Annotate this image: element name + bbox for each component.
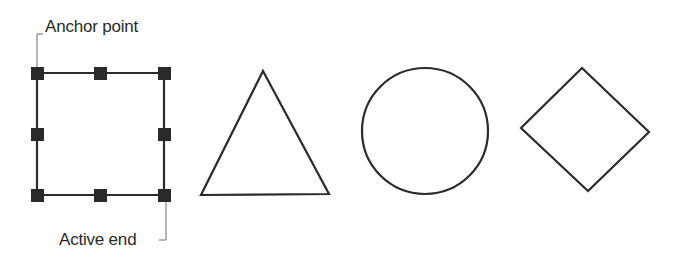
handle-middle-right[interactable] xyxy=(158,128,171,141)
anchor-point-handle[interactable] xyxy=(31,67,44,80)
handle-middle-left[interactable] xyxy=(31,128,44,141)
active-end-callout-line xyxy=(159,200,166,240)
handle-top-middle[interactable] xyxy=(94,67,107,80)
diamond-shape xyxy=(521,68,649,191)
anchor-point-label: Anchor point xyxy=(45,17,138,37)
anchor-point-callout-line xyxy=(37,34,43,68)
active-end-label: Active end xyxy=(59,230,136,250)
square-shape xyxy=(37,73,164,195)
circle-shape xyxy=(362,68,488,194)
handle-bottom-middle[interactable] xyxy=(94,189,107,202)
handle-bottom-left[interactable] xyxy=(31,189,44,202)
handle-top-right[interactable] xyxy=(158,67,171,80)
shapes-diagram xyxy=(0,0,677,263)
active-end-handle[interactable] xyxy=(158,189,171,202)
triangle-shape xyxy=(201,71,329,195)
square-handles xyxy=(31,67,171,202)
